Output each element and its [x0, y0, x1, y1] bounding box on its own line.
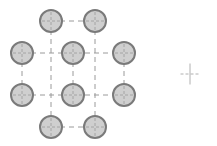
bolt-pattern-diagram [0, 0, 217, 146]
